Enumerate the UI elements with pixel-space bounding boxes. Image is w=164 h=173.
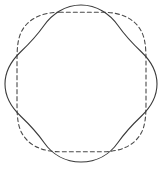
figure-svg bbox=[0, 0, 164, 173]
geometric-figure-canvas bbox=[0, 0, 164, 173]
figure-background bbox=[0, 0, 164, 173]
